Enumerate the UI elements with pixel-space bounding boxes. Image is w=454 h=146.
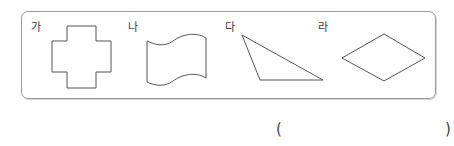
label-na: 나 (128, 22, 138, 34)
label-da: 다 (225, 22, 235, 34)
label-ga: 가 (31, 22, 41, 34)
shape-ga-cross (52, 26, 111, 88)
answer-blank[interactable] (284, 118, 442, 140)
shape-na-wave (147, 34, 206, 85)
shape-ra-rhombus (342, 34, 425, 81)
answer-open-paren: ( (276, 120, 282, 138)
answer-close-paren: ) (445, 120, 451, 138)
shape-da-triangle (242, 35, 323, 80)
label-ra: 라 (318, 22, 328, 34)
